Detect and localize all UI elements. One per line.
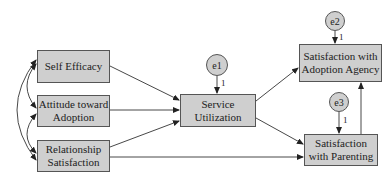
error-label: e1: [212, 60, 221, 71]
node-label: Satisfaction with Parenting: [305, 137, 377, 163]
sem-diagram: Self Efficacy Attitude toward Adoption R…: [0, 0, 385, 179]
node-label: Satisfaction with Adoption Agency: [300, 50, 381, 76]
node-label: Relationship Satisfaction: [38, 143, 109, 169]
error-e1: e1: [206, 54, 228, 76]
node-label: Self Efficacy: [45, 60, 103, 73]
weight-e2: 1: [339, 32, 344, 42]
weight-e3: 1: [343, 115, 348, 125]
node-self-efficacy: Self Efficacy: [37, 50, 110, 83]
node-service-utilization: Service Utilization: [180, 94, 256, 127]
error-label: e3: [334, 97, 343, 108]
node-label: Attitude toward Adoption: [38, 98, 109, 124]
node-label: Service Utilization: [181, 98, 255, 124]
weight-e1: 1: [221, 78, 226, 88]
node-attitude-toward-adoption: Attitude toward Adoption: [37, 95, 110, 127]
error-label: e2: [330, 16, 339, 27]
node-satisfaction-adoption-agency: Satisfaction with Adoption Agency: [299, 44, 382, 82]
node-satisfaction-parenting: Satisfaction with Parenting: [304, 134, 378, 166]
error-e3: e3: [329, 92, 349, 112]
error-e2: e2: [325, 11, 345, 31]
node-relationship-satisfaction: Relationship Satisfaction: [37, 140, 110, 172]
